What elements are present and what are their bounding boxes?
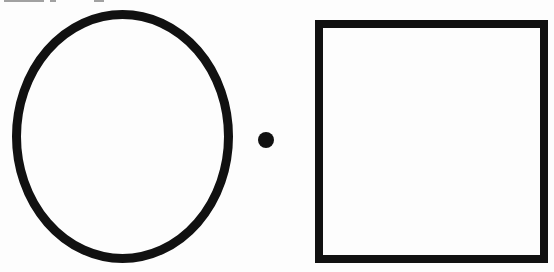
square-shape — [319, 24, 544, 259]
figure-canvas — [0, 0, 554, 272]
shapes-diagram — [0, 0, 554, 272]
ellipse-shape — [17, 15, 229, 259]
dot-shape — [258, 132, 274, 148]
